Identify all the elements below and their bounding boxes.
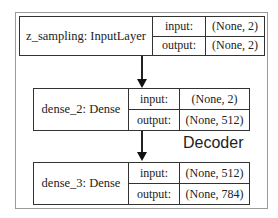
arrowhead-1 xyxy=(137,79,147,88)
edge-arrow-2 xyxy=(141,131,143,153)
output-key: output: xyxy=(129,183,179,204)
node-dense-2: dense_2: Dense input: output: (None, 2) … xyxy=(33,88,250,131)
input-shape: (None, 2) xyxy=(206,17,264,36)
output-key: output: xyxy=(153,36,205,56)
output-shape: (None, 2) xyxy=(206,36,264,56)
input-shape: (None, 2) xyxy=(180,89,249,109)
output-shape: (None, 784) xyxy=(180,183,249,204)
node-label: z_sampling: InputLayer xyxy=(20,17,153,55)
input-key: input: xyxy=(129,89,179,109)
node-label: dense_3: Dense xyxy=(34,163,129,204)
arrowhead-2 xyxy=(137,152,147,161)
input-shape: (None, 512) xyxy=(180,163,249,183)
input-key: input: xyxy=(153,17,205,36)
node-dense-3: dense_3: Dense input: output: (None, 512… xyxy=(33,162,250,205)
node-z-sampling: z_sampling: InputLayer input: output: (N… xyxy=(19,16,265,56)
output-shape: (None, 512) xyxy=(180,109,249,130)
node-label: dense_2: Dense xyxy=(34,89,129,130)
input-key: input: xyxy=(129,163,179,183)
decoder-title: Decoder xyxy=(183,134,243,152)
output-key: output: xyxy=(129,109,179,130)
edge-arrow-1 xyxy=(141,56,143,80)
